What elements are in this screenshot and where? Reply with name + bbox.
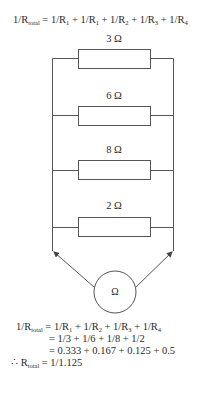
resistor-2-label: 6 Ω (84, 90, 144, 101)
right-lead-arrow (136, 252, 172, 287)
resistor-4-label: 2 Ω (84, 200, 144, 211)
ohmmeter-label: Ω (85, 286, 145, 297)
resistor-3-label: 8 Ω (84, 144, 144, 155)
calc-line-2: = 1/3 + 1/6 + 1/8 + 1/2 (49, 334, 145, 345)
resistor-1-label: 3 Ω (84, 33, 144, 44)
resistor-3 (79, 161, 151, 180)
resistor-2 (79, 107, 151, 126)
resistor-branch-2 (53, 107, 174, 126)
calc-line-3: = 0.333 + 0.167 + 0.125 + 0.5 (49, 346, 175, 357)
resistor-branch-4 (53, 218, 174, 237)
resistor-branch-1 (53, 50, 174, 69)
resistor-1 (79, 50, 151, 69)
resistor-4 (79, 218, 151, 237)
left-lead-arrow (54, 252, 94, 287)
calc-line-1: 1/Rtotal = 1/R1 + 1/R2 + 1/R3 + 1/R4 (16, 322, 161, 334)
resistor-branch-3 (53, 161, 174, 180)
calc-line-4: ∴ Rtotal = 1/1.125 (11, 358, 82, 370)
